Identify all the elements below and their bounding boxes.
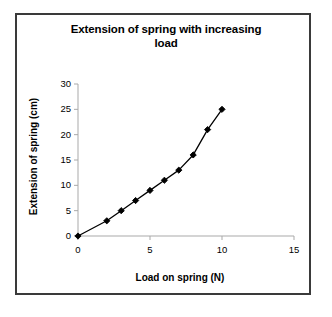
chart-figure: Extension of spring with increasing load… (0, 0, 332, 317)
data-series-line (78, 109, 222, 236)
y-tick-label: 25 (38, 103, 71, 114)
x-tick-label: 5 (135, 244, 165, 255)
x-tick-label: 15 (279, 244, 309, 255)
series-line (78, 109, 222, 236)
y-tick-label: 5 (38, 205, 71, 216)
axes-group (78, 84, 294, 236)
axis-ticks (74, 84, 294, 240)
y-tick-label: 10 (38, 179, 71, 190)
data-point-marker (75, 233, 81, 239)
y-tick-label: 15 (38, 154, 71, 165)
y-tick-label: 20 (38, 129, 71, 140)
x-tick-label: 0 (63, 244, 93, 255)
y-tick-label: 30 (38, 78, 71, 89)
data-point-markers (75, 106, 225, 239)
y-tick-label: 0 (38, 230, 71, 241)
x-tick-label: 10 (207, 244, 237, 255)
